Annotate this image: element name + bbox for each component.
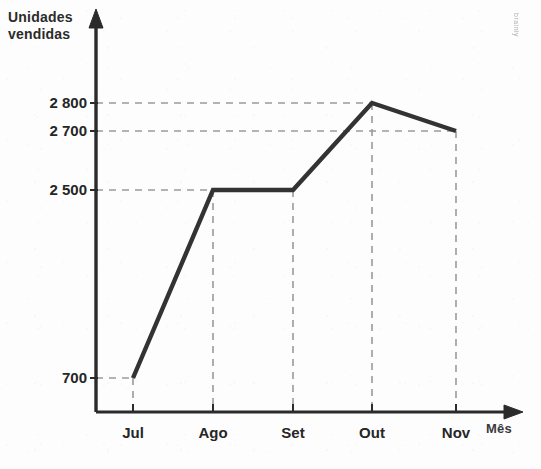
y-tick-label-2700: 2 700 [9, 122, 87, 139]
x-tick-label-out: Out [342, 424, 402, 441]
y-tick-label-700: 700 [9, 369, 87, 386]
x-axis-arrowhead [504, 405, 523, 419]
chart-figure: Unidades vendidas Mês 2 800 2 700 2 500 … [0, 0, 541, 469]
y-axis-title-line-2: vendidas [8, 26, 73, 43]
line-chart-canvas [0, 0, 541, 469]
axes [89, 9, 523, 419]
y-axis-title: Unidades vendidas [8, 9, 73, 43]
y-tick-label-2500: 2 500 [9, 181, 87, 198]
data-series-line [133, 103, 456, 378]
x-tick-label-jul: Jul [103, 424, 163, 441]
y-axis-title-line-1: Unidades [8, 9, 73, 26]
x-axis-title: Mês [486, 421, 512, 436]
x-tick-label-ago: Ago [183, 424, 243, 441]
y-tick-label-2800: 2 800 [9, 94, 87, 111]
watermark-text: brainly [506, 13, 520, 65]
x-tick-label-set: Set [263, 424, 323, 441]
vertical-droplines [133, 103, 456, 412]
x-tick-label-nov: Nov [426, 424, 486, 441]
y-axis-arrowhead [89, 9, 103, 28]
